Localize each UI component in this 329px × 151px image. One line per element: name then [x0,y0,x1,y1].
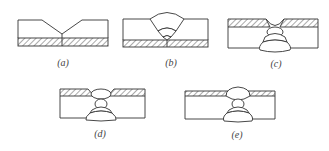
backing-strip [18,38,108,46]
plate-right [252,96,275,119]
cap-bead [226,87,250,100]
top-layer-left [60,89,94,96]
panel-label-b: (b) [165,57,177,69]
panel-label-c: (c) [270,58,282,70]
plate-left [228,27,262,48]
panel-label-a: (a) [57,57,69,69]
top-layer-right [108,89,145,96]
plate-left [60,96,88,118]
panel-b [123,13,208,48]
top-layer-left [185,91,228,96]
back-bead [259,40,290,52]
panel-d [60,89,145,121]
plate-left [123,19,150,40]
v-groove-plate [18,20,108,38]
plate-left [185,96,224,119]
top-layer-right [248,91,275,96]
panel-e [185,87,275,122]
panel-label-e: (e) [231,129,243,141]
panel-label-d: (d) [94,128,106,140]
weld-diagram: (a) (b) (c) (d) [0,0,329,151]
back-bead [86,111,116,121]
back-bead [223,111,252,122]
panel-c [228,19,318,52]
plate-right [290,27,318,48]
top-layer-left [228,19,270,27]
top-layer-right [280,19,318,27]
plate-right [116,96,145,118]
cap-bead [91,89,111,99]
plate-right [184,19,208,40]
panel-a [18,20,108,46]
backing-strip [123,40,208,47]
root-bead [163,36,171,41]
